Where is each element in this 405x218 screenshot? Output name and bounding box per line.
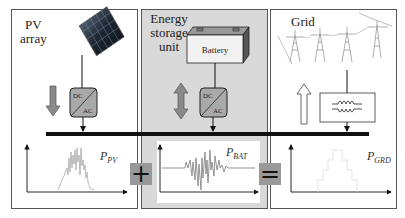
pv-power-curve [58,148,94,190]
transmission-towers-icon [278,13,392,64]
battery-icon: Battery [187,27,249,88]
grid-plot-label: PGRD [367,149,391,165]
bat-plot-label: PBAT [226,145,247,161]
pv-power-flow-down-arrow-icon [46,86,60,116]
plus-operator: + [130,163,152,185]
grid-power-flow-up-arrow-icon [297,84,311,124]
ess-dc-ac-converter-icon: DC AC [200,88,227,131]
svg-text:DC: DC [73,92,83,100]
diagram-graphics: DC AC Battery DC AC [0,0,405,218]
grid-transformer-icon [320,70,375,131]
svg-text:DC: DC [203,92,213,100]
svg-text:AC: AC [83,107,93,115]
pv-dc-ac-converter-icon: DC AC [70,88,97,131]
svg-text:AC: AC [213,107,223,115]
pv-plot-label: PPV [100,149,117,165]
equals-operator: = [259,163,281,185]
ess-power-flow-bidirectional-arrow-icon [174,83,188,119]
grid-power-curve [318,150,357,192]
solar-panel-icon [77,5,126,88]
svg-text:Battery: Battery [202,45,229,55]
ac-bus-bar [46,132,369,136]
